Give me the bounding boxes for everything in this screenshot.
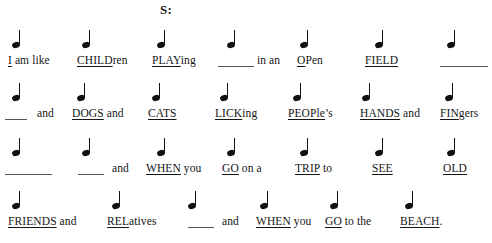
lyric-cell: WHEN you: [146, 162, 201, 175]
unstressed-text: Pen: [305, 54, 323, 66]
lyric-cell: GO to the: [325, 215, 371, 228]
unstressed-text: ing: [242, 107, 257, 119]
note-stem: [307, 138, 308, 153]
quarter-note-icon: [227, 138, 239, 158]
staff-row-4: FRIENDS andRELativesandWHEN youGO to the…: [0, 191, 492, 243]
note-stem: [164, 30, 165, 45]
stressed-syllable: FIN: [440, 107, 459, 119]
note-stem: [382, 30, 383, 45]
note-stem: [89, 138, 90, 153]
lyric-cell: and: [222, 215, 239, 228]
unstressed-text: on a: [239, 162, 262, 174]
unstressed-text: and: [222, 215, 239, 227]
lyric-cell: FRIENDS and: [8, 215, 77, 228]
stressed-syllable: FIELD: [365, 54, 398, 66]
lyric-cell: PLAYing: [152, 54, 196, 67]
answer-blank[interactable]: [5, 119, 27, 120]
lyric-cell: FIELD: [365, 54, 398, 67]
lyric-cell: GO on a: [222, 162, 262, 175]
page-title: S:: [160, 3, 172, 16]
lyric-cell: DOGS and: [72, 107, 124, 120]
stressed-syllable: WHEN: [256, 215, 291, 227]
stressed-syllable: WHEN: [146, 162, 181, 174]
unstressed-text: ren: [113, 54, 128, 66]
lyric-cell: and: [37, 107, 54, 120]
quarter-note-icon: [12, 191, 24, 211]
note-stem: [227, 83, 228, 98]
quarter-note-icon: [82, 30, 94, 50]
unstressed-text: and: [57, 215, 77, 227]
staff-row-3: andWHEN youGO on aTRIP toSEEOLD: [0, 138, 492, 191]
stressed-syllable: CATS: [148, 107, 177, 119]
lyric-cell: HANDS and: [360, 107, 420, 120]
note-stem: [19, 30, 20, 45]
unstressed-text: and: [400, 107, 420, 119]
lyric-cell: WHEN you: [256, 215, 311, 228]
answer-blank[interactable]: [188, 227, 214, 228]
lyric-cell: LICKing: [215, 107, 257, 120]
stressed-syllable: REL: [107, 215, 129, 227]
note-stem: [267, 191, 268, 206]
note-stem: [234, 138, 235, 153]
note-stem: [84, 83, 85, 98]
answer-blank[interactable]: [218, 66, 254, 67]
note-stem: [454, 30, 455, 45]
unstressed-text: ing: [181, 54, 196, 66]
answer-blank[interactable]: [5, 174, 52, 175]
unstressed-text: atives: [129, 215, 156, 227]
lyric-cell: in an: [257, 54, 280, 67]
lyric-cell: PEOPle’s: [288, 107, 333, 120]
stressed-syllable: GO: [325, 215, 342, 227]
note-stem: [454, 138, 455, 153]
answer-blank[interactable]: [440, 66, 488, 67]
quarter-note-icon: [220, 83, 232, 103]
unstressed-text: am like: [12, 54, 50, 66]
unstressed-text: gers: [459, 107, 479, 119]
note-stem: [337, 191, 338, 206]
lyric-cell: CHILDren: [77, 54, 128, 67]
note-stem: [369, 83, 370, 98]
note-stem: [300, 83, 301, 98]
note-stem: [89, 30, 90, 45]
quarter-note-icon: [260, 191, 272, 211]
quarter-note-icon: [405, 191, 417, 211]
quarter-note-icon: [188, 191, 200, 211]
unstressed-text: and: [37, 107, 54, 119]
stressed-syllable: OLD: [443, 162, 467, 174]
unstressed-text: to: [320, 162, 332, 174]
quarter-note-icon: [375, 30, 387, 50]
stressed-syllable: LICK: [215, 107, 242, 119]
stressed-syllable: TRIP: [295, 162, 320, 174]
quarter-note-icon: [12, 138, 24, 158]
quarter-note-icon: [82, 138, 94, 158]
answer-blank[interactable]: [78, 174, 104, 175]
stressed-syllable: PEOPle: [288, 107, 325, 119]
quarter-note-icon: [375, 138, 387, 158]
stressed-syllable: HANDS: [360, 107, 400, 119]
quarter-note-icon: [157, 30, 169, 50]
lyric-cell: I am like: [8, 54, 50, 67]
note-stem: [19, 191, 20, 206]
unstressed-text: and: [104, 107, 124, 119]
stressed-syllable: FRIENDS: [8, 215, 57, 227]
note-stem: [19, 83, 20, 98]
note-stem: [412, 191, 413, 206]
lyric-cell: OPen: [297, 54, 323, 67]
note-stem: [382, 138, 383, 153]
note-stem: [19, 138, 20, 153]
quarter-note-icon: [152, 83, 164, 103]
quarter-note-icon: [227, 30, 239, 50]
lyric-cell: SEE: [372, 162, 393, 175]
quarter-note-icon: [77, 83, 89, 103]
stressed-syllable: GO: [222, 162, 239, 174]
note-stem: [164, 138, 165, 153]
quarter-note-icon: [12, 83, 24, 103]
staff-row-1: I am likeCHILDrenPLAYingin anOPenFIELD: [0, 30, 492, 83]
quarter-note-icon: [300, 138, 312, 158]
stressed-syllable: PLAY: [152, 54, 181, 66]
unstressed-text: .: [439, 215, 442, 227]
quarter-note-icon: [362, 83, 374, 103]
quarter-note-icon: [300, 30, 312, 50]
quarter-note-icon: [330, 191, 342, 211]
quarter-note-icon: [447, 30, 459, 50]
